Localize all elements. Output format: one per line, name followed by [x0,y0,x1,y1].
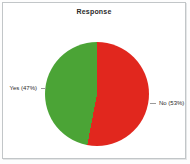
chart-panel: Response Yes (47%) No (53%) [2,2,186,159]
chart-title: Response [3,8,185,15]
yes-tick-line [41,88,46,89]
pie-chart [45,42,149,146]
chart-screenshot: Response Yes (47%) No (53%) [0,0,190,164]
no-slice-label: No (53%) [159,100,184,107]
no-tick-line [150,103,156,104]
yes-slice-label: Yes (47%) [10,85,37,92]
